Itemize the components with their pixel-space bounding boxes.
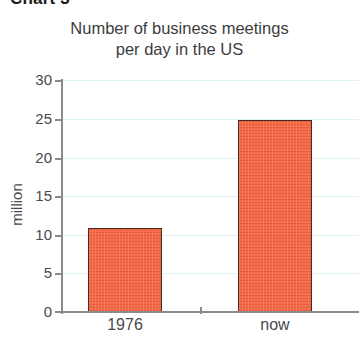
- gridline-20: [62, 158, 359, 159]
- y-tick-label-0: 0: [12, 304, 52, 319]
- y-tick-label-25: 25: [12, 111, 52, 126]
- bar-now: [238, 120, 312, 312]
- x-tick-mid: [200, 307, 202, 314]
- gridline-25: [62, 119, 359, 120]
- y-tick-30: [55, 80, 63, 82]
- y-tick-20: [55, 158, 63, 160]
- gridline-30: [62, 80, 359, 81]
- y-tick-label-5: 5: [12, 265, 52, 280]
- gridline-15: [62, 196, 359, 197]
- x-axis-line: [55, 311, 359, 313]
- x-tick-label-1976: 1976: [70, 316, 180, 334]
- x-tick-label-now: now: [220, 316, 330, 334]
- y-tick-15: [55, 196, 63, 198]
- y-tick-label-20: 20: [12, 150, 52, 165]
- y-tick-25: [55, 119, 63, 121]
- y-tick-label-30: 30: [12, 72, 52, 87]
- y-tick-10: [55, 235, 63, 237]
- bar-1976: [88, 228, 162, 312]
- y-axis-label: million: [8, 170, 25, 240]
- x-tick-start: [61, 307, 63, 314]
- bar-chart-plot: 30 25 20 15 10 5 0 million 1976 now: [0, 0, 359, 351]
- y-tick-5: [55, 273, 63, 275]
